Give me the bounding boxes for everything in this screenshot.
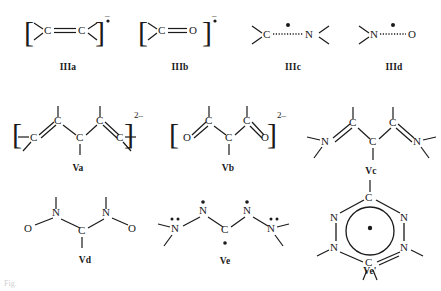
atom-nitrogen-left: N — [321, 135, 329, 147]
bond-substituent — [164, 235, 172, 246]
lone-pair-dot-icon — [177, 218, 180, 221]
bond-single — [112, 218, 128, 225]
bond-substituent — [307, 137, 320, 140]
bracket-open-icon: [ — [24, 15, 34, 48]
bond-single — [183, 217, 200, 226]
bond-substituent — [423, 137, 436, 140]
radical-dot-icon — [286, 23, 290, 27]
bond-single — [88, 219, 104, 228]
ring-bond — [376, 200, 400, 213]
structure-Vd: O N C N O — [22, 190, 148, 252]
atom-nitrogen-upper-right: N — [400, 211, 408, 223]
structure-label-Vd: Vd — [22, 255, 148, 265]
atom-oxygen-right: O — [128, 222, 136, 234]
radical-dot-icon — [245, 200, 249, 204]
structure-Vb: [ ] O C C C O 2– — [163, 98, 293, 160]
bond-substituent — [411, 250, 423, 256]
radical-dot-icon — [201, 200, 205, 204]
bond-double-upper — [252, 122, 264, 135]
atom-nitrogen-4: N — [267, 222, 275, 234]
atom-oxygen: O — [408, 28, 416, 40]
bond-substituent — [319, 37, 329, 44]
structure-IIIa: [ ] C C – — [18, 4, 118, 56]
atom-nitrogen-upper-left: N — [330, 211, 338, 223]
bond-double-upper — [398, 124, 414, 138]
bracket-close-icon: ] — [202, 15, 212, 48]
bond-double-lower — [396, 128, 412, 142]
radical-dot-icon — [368, 226, 372, 230]
bond-substituent — [359, 37, 369, 44]
structure-label-Ve: Ve — [155, 256, 295, 266]
bond-substituent — [34, 33, 43, 40]
structure-label-Vc: Vc — [303, 166, 439, 176]
structure-Ve-prime: C N N N N C — [300, 186, 440, 272]
bond-single — [86, 125, 97, 135]
radical-dot-icon — [106, 19, 109, 22]
atom-nitrogen-lower-left: N — [330, 241, 338, 253]
charge-label-Va: 2– — [134, 110, 144, 120]
figure-canvas: [ ] C C – IIIa [ ] C O — [0, 0, 441, 291]
structure-Ve: N N C N N — [155, 188, 295, 254]
atom-carbon: C — [263, 28, 270, 40]
structure-label-Va: Va — [8, 163, 148, 173]
bond-single — [379, 128, 391, 139]
bond-substituent — [359, 26, 369, 33]
atom-nitrogen-1: N — [171, 222, 179, 234]
atom-nitrogen-right: N — [413, 135, 421, 147]
structure-label-Ve-prime: Ve' — [300, 266, 440, 276]
bond-substituent — [148, 23, 157, 29]
atom-oxygen-left: O — [24, 222, 32, 234]
atom-carbon-3: C — [369, 135, 376, 147]
bond-substituent — [421, 147, 429, 158]
bond-single — [35, 218, 53, 225]
structure-Va-drawing: [ ] C C C C C — [8, 98, 148, 160]
atom-carbon-center: C — [78, 224, 85, 236]
bracket-open-icon: [ — [169, 117, 179, 150]
structure-IIIc: C N — [243, 6, 343, 56]
structure-Vc-drawing: N C C C N — [303, 100, 439, 166]
bond-single — [235, 126, 245, 135]
structure-Vb-drawing: [ ] O C C C O 2– — [163, 98, 293, 160]
bond-substituent — [317, 250, 329, 256]
atom-carbon-3: C — [76, 131, 83, 143]
radical-dot-icon — [213, 19, 216, 22]
bond-substituent — [158, 224, 170, 227]
structure-Va: [ ] C C C C C — [8, 98, 148, 160]
bond-substituent — [277, 224, 289, 227]
radical-dot-icon — [223, 241, 227, 245]
atom-nitrogen-lower-right: N — [400, 241, 408, 253]
bracket-open-icon: [ — [12, 117, 22, 150]
atom-nitrogen-2: N — [199, 204, 207, 216]
bond-substituent — [34, 23, 43, 29]
structure-Ve-prime-drawing: C N N N N C — [300, 186, 440, 272]
bond-single — [358, 128, 370, 139]
structure-IIIc-drawing: C N — [243, 6, 343, 56]
ring-bond — [340, 252, 363, 262]
bond-substituent — [252, 26, 262, 33]
bond-substituent — [314, 147, 322, 158]
structure-IIId: N O — [348, 6, 440, 56]
structure-IIIa-drawing: [ ] C C – — [18, 4, 118, 56]
structure-label-IIId: IIId — [348, 62, 440, 72]
atom-oxygen-left: O — [183, 131, 191, 143]
radical-dot-icon — [391, 23, 395, 27]
bond-single — [208, 217, 223, 227]
atom-carbon-center: C — [221, 223, 228, 235]
atom-carbon-3: C — [225, 131, 232, 143]
atom-nitrogen-3: N — [243, 204, 251, 216]
structure-IIIb: [ ] C O – — [132, 4, 228, 56]
structure-label-Vb: Vb — [163, 163, 293, 173]
structure-label-IIIc: IIIc — [243, 62, 343, 72]
atom-nitrogen: N — [305, 28, 313, 40]
structure-IIIb-drawing: [ ] C O – — [132, 4, 228, 56]
atom-carbon-left: C — [44, 24, 51, 36]
bracket-close-icon: ] — [95, 15, 105, 48]
bracket-open-icon: [ — [138, 15, 148, 48]
bond-substituent — [252, 37, 262, 44]
bond-substituent — [319, 26, 329, 33]
atom-nitrogen: N — [370, 28, 378, 40]
bond-substituent — [23, 142, 31, 151]
atom-carbon-1: C — [30, 131, 37, 143]
lone-pair-dot-icon — [276, 218, 279, 221]
structure-Vc: N C C C N — [303, 100, 439, 166]
